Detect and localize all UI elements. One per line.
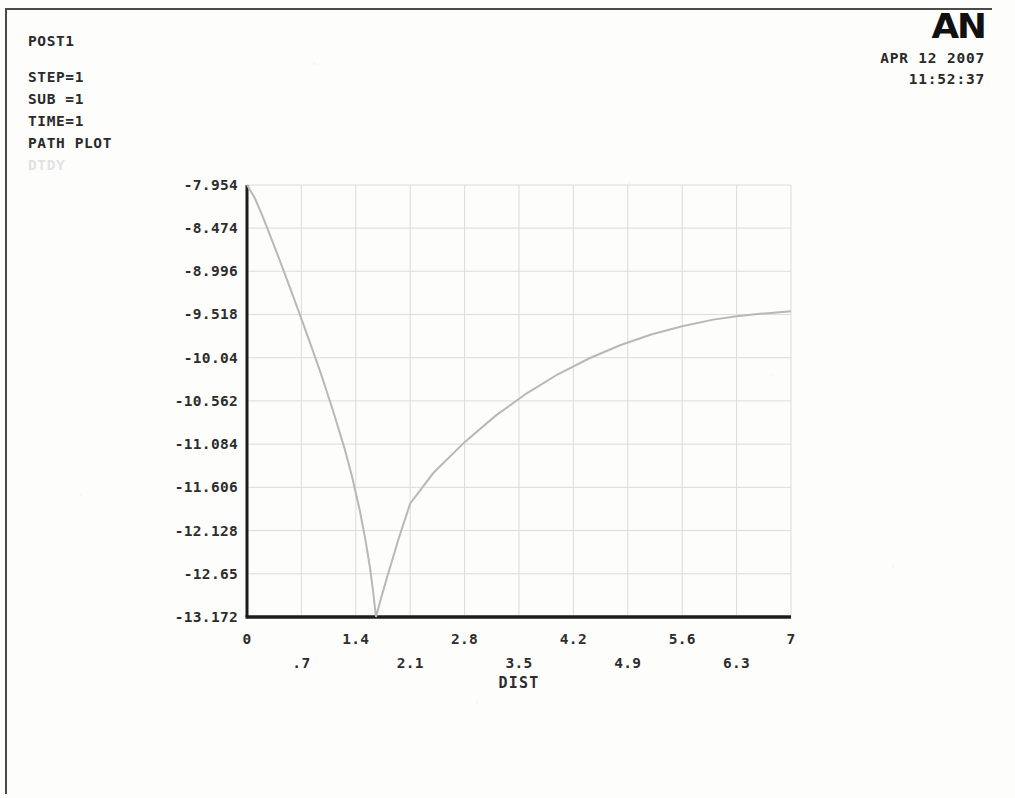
y-tick-label-5: -10.562 <box>175 393 238 409</box>
y-tick-label-0: -7.954 <box>184 177 238 193</box>
plot-gridlines <box>247 185 791 617</box>
y-tick-label-10: -13.172 <box>175 609 238 625</box>
x-tick-label-5: 3.5 <box>505 655 532 671</box>
y-tick-label-8: -12.128 <box>175 523 238 539</box>
scanned-page: POST1 STEP=1 SUB =1 TIME=1 PATH PLOT DTD… <box>0 0 1015 798</box>
x-tick-label-8: 5.6 <box>669 631 696 647</box>
y-tick-label-7: -11.606 <box>175 479 238 495</box>
path-plot-figure: -7.954-8.474-8.996-9.518-10.04-10.562-11… <box>0 0 1015 798</box>
x-tick-label-0: 0 <box>242 631 251 647</box>
x-tick-label-1: .7 <box>292 655 310 671</box>
x-axis-title: DIST <box>499 674 540 692</box>
y-tick-label-1: -8.474 <box>184 220 238 236</box>
x-tick-label-6: 4.2 <box>560 631 587 647</box>
x-tick-label-9: 6.3 <box>723 655 750 671</box>
x-tick-label-10: 7 <box>786 631 795 647</box>
y-tick-label-9: -12.65 <box>184 566 238 582</box>
y-axis-tick-labels: -7.954-8.474-8.996-9.518-10.04-10.562-11… <box>175 177 238 625</box>
x-tick-label-3: 2.1 <box>397 655 424 671</box>
path-plot-canvas: -7.954-8.474-8.996-9.518-10.04-10.562-11… <box>0 0 1015 798</box>
x-axis-tick-labels: 0.71.42.12.83.54.24.95.66.37 <box>242 631 795 671</box>
y-tick-label-3: -9.518 <box>184 306 238 322</box>
x-tick-label-7: 4.9 <box>614 655 641 671</box>
x-tick-label-4: 2.8 <box>451 631 478 647</box>
x-tick-label-2: 1.4 <box>342 631 369 647</box>
y-tick-label-2: -8.996 <box>184 263 238 279</box>
y-tick-label-4: -10.04 <box>184 350 238 366</box>
y-tick-label-6: -11.084 <box>175 436 238 452</box>
